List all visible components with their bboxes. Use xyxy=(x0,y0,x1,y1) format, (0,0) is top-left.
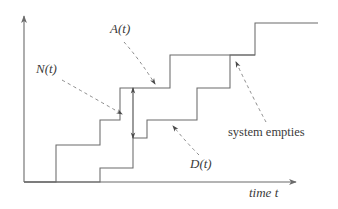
label-a-of-t: A(t) xyxy=(110,22,130,35)
diagram-canvas xyxy=(0,0,338,209)
leader-line-n-of-t xyxy=(62,80,122,114)
leader-line-system-empties xyxy=(236,62,266,122)
label-d-of-t: D(t) xyxy=(190,157,212,170)
arrival-step-curve xyxy=(24,23,318,182)
label-system-empties: system empties xyxy=(228,126,305,139)
label-n-of-t: N(t) xyxy=(36,62,57,75)
leader-line-d-of-t xyxy=(173,126,199,155)
departure-step-curve xyxy=(24,55,255,182)
leader-line-a-of-t xyxy=(124,42,155,84)
queueing-diagram-figure: A(t) N(t) D(t) system empties time t xyxy=(0,0,338,209)
label-time-axis: time t xyxy=(249,186,278,199)
